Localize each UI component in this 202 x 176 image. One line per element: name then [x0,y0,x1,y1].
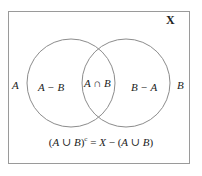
set-b-label: B [177,80,184,91]
formula-rhs-x: X [99,136,106,148]
region-label-b-minus-a: B − A [131,82,157,93]
formula-rhs-b: B [143,136,150,148]
formula-equals-operator: = [87,136,99,148]
set-a-label: A [12,80,19,91]
region-label-a-intersect-b: A ∩ B [84,78,111,89]
formula-rhs-close-paren: ) [150,136,154,148]
complement-formula: (A ∪ B)c = X − (A ∪ B) [0,136,202,148]
region-label-a-minus-b: A − B [38,82,64,93]
venn-diagram-figure: X A B A − B A ∩ B B − A (A ∪ B)c = X − (… [0,0,202,176]
formula-lhs-union-operator: ∪ [59,136,74,148]
formula-rhs-minus-operator: − [106,136,118,148]
formula-rhs-union-operator: ∪ [128,136,143,148]
universal-set-label: X [166,14,175,26]
formula-lhs-b: B [74,136,81,148]
